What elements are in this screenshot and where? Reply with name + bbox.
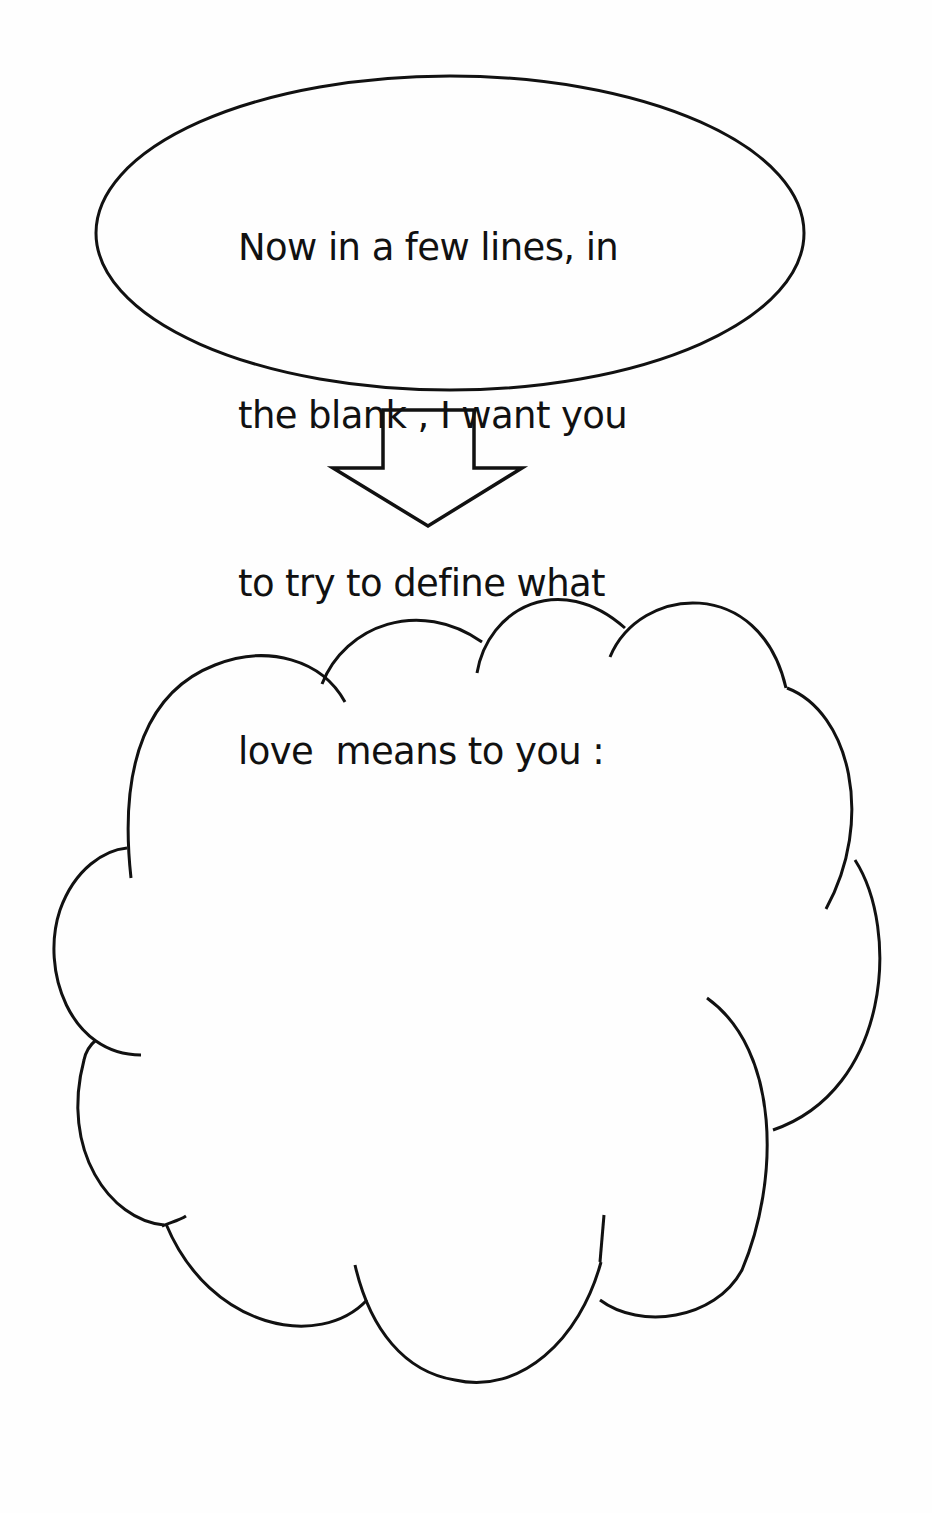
prompt-line: the blank , I want you xyxy=(238,388,708,444)
prompt-line: Now in a few lines, in xyxy=(238,220,708,276)
worksheet-page: Now in a few lines, in the blank , I wan… xyxy=(0,0,932,1513)
prompt-line: to try to define what xyxy=(238,556,708,612)
love-definition-answer-field[interactable] xyxy=(160,720,764,1244)
